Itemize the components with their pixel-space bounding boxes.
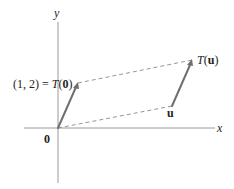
Tu-label: T(u) xyxy=(197,53,218,67)
origin-label: 0 xyxy=(44,132,50,146)
translation-diagram: x y 0 (1, 2) = T(0) T(u) u xyxy=(0,0,234,189)
T0-label-prefix: (1, 2) = xyxy=(13,77,52,91)
arrowhead-T0 xyxy=(73,82,79,89)
dashed-origin-to-u xyxy=(58,106,172,128)
T0-label: (1, 2) = T(0) xyxy=(13,77,72,91)
x-axis-label: x xyxy=(216,121,223,135)
Tu-label-close-paren: ) xyxy=(214,53,218,67)
T0-label-close-paren: ) xyxy=(68,77,72,91)
translation-vector-origin xyxy=(58,87,76,128)
y-axis-label: y xyxy=(53,6,60,20)
u-label: u xyxy=(167,106,174,120)
translation-vector-u xyxy=(172,65,190,106)
dashed-T0-to-Tu xyxy=(78,60,192,83)
